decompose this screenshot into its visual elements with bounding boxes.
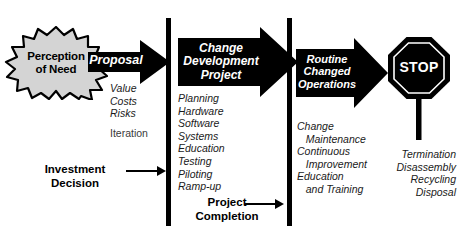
list-item: and Training bbox=[297, 183, 367, 196]
stop-sign: STOP bbox=[386, 36, 452, 140]
list-item: Continuous bbox=[297, 145, 367, 158]
change-development-items-list: Planning Hardware Software Systems Educa… bbox=[178, 92, 225, 193]
list-item: Recycling bbox=[366, 173, 456, 186]
starburst-line-2: of Need bbox=[36, 63, 77, 76]
change-development-project-arrow-label: Change Development Project bbox=[178, 42, 264, 82]
list-item: Risks bbox=[110, 107, 137, 120]
list-item: Improvement bbox=[297, 158, 367, 171]
starburst-line-1: Perception bbox=[27, 50, 84, 63]
project-completion-arrow-head bbox=[275, 199, 284, 209]
list-item: Costs bbox=[110, 95, 137, 108]
list-item: Ramp-up bbox=[178, 180, 225, 193]
arrow-label-line: Project bbox=[178, 69, 264, 82]
arrow-label-line: Routine bbox=[296, 53, 358, 65]
proposal-items-list: Value Costs Risks bbox=[110, 82, 137, 120]
investment-decision-arrow-shaft bbox=[126, 170, 158, 172]
callout-line-2: Decision bbox=[26, 177, 124, 191]
diagram-canvas: Perception of Need Proposal Value Costs … bbox=[0, 0, 462, 241]
arrow-label-line: Development bbox=[178, 55, 264, 68]
list-item: Testing bbox=[178, 155, 225, 168]
termination-items-list: Termination Disassembly Recycling Dispos… bbox=[366, 148, 456, 198]
proposal-iteration-label: Iteration bbox=[110, 127, 148, 140]
list-item: Change bbox=[297, 120, 367, 133]
list-item: Iteration bbox=[110, 127, 148, 140]
arrow-label-line: Changed bbox=[296, 65, 358, 77]
list-item: Software bbox=[178, 117, 225, 130]
routine-changed-operations-arrow: Routine Changed Operations bbox=[296, 38, 388, 108]
routine-operations-items-list: Change Maintenance Continuous Improvemen… bbox=[297, 120, 367, 196]
list-item: Maintenance bbox=[297, 133, 367, 146]
list-item: Hardware bbox=[178, 105, 225, 118]
list-item: Termination bbox=[366, 148, 456, 161]
routine-changed-operations-arrow-label: Routine Changed Operations bbox=[296, 53, 358, 90]
list-item: Value bbox=[110, 82, 137, 95]
project-completion-label: Project Completion bbox=[179, 196, 275, 223]
list-item: Disassembly bbox=[366, 161, 456, 174]
list-item: Education bbox=[297, 170, 367, 183]
list-item: Education bbox=[178, 142, 225, 155]
investment-decision-label: Investment Decision bbox=[26, 163, 124, 190]
list-item: Planning bbox=[178, 92, 225, 105]
list-item: Disposal bbox=[366, 186, 456, 199]
list-item: Piloting bbox=[178, 168, 225, 181]
callout-line-1: Investment bbox=[26, 163, 124, 177]
proposal-arrow-label: Proposal bbox=[88, 53, 144, 67]
project-completion-arrow-shaft bbox=[245, 203, 276, 205]
callout-line-2: Completion bbox=[179, 210, 275, 224]
stop-sign-label: STOP bbox=[386, 59, 452, 75]
arrow-label-line: Operations bbox=[296, 78, 358, 90]
list-item: Systems bbox=[178, 130, 225, 143]
proposal-arrow: Proposal bbox=[88, 40, 170, 84]
arrow-label-line: Change bbox=[178, 42, 264, 55]
change-development-project-arrow: Change Development Project bbox=[178, 27, 298, 97]
investment-decision-arrow-head bbox=[157, 166, 166, 176]
